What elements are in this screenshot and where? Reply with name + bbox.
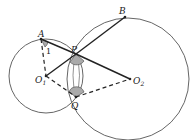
circle-o2 <box>67 18 189 140</box>
point-o2 <box>129 78 132 81</box>
angle-q-marker <box>69 87 84 97</box>
geometry-diagram: A B P Q 1 O1 O2 <box>0 0 192 140</box>
label-angle-1: 1 <box>46 47 51 56</box>
segment-p-b <box>76 17 125 54</box>
segment-o1-p <box>46 54 76 76</box>
segment-o1-q <box>46 76 76 97</box>
label-p: P <box>70 45 78 55</box>
label-b: B <box>118 6 126 16</box>
segment-p-o2 <box>76 54 130 79</box>
point-o1 <box>45 75 48 78</box>
point-b <box>124 16 127 19</box>
label-o2: O2 <box>133 76 144 87</box>
label-a: A <box>37 29 45 39</box>
point-q <box>75 96 78 99</box>
label-q: Q <box>71 101 79 111</box>
segment-q-o2 <box>76 79 130 97</box>
label-o1: O1 <box>35 75 46 86</box>
